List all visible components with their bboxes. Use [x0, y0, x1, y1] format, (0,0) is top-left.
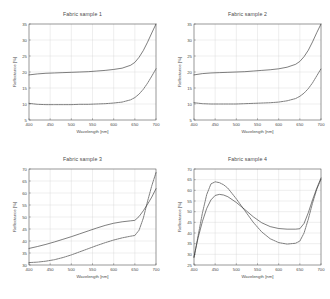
svg-text:25: 25: [187, 263, 192, 268]
svg-text:30: 30: [22, 263, 27, 268]
svg-text:45: 45: [22, 227, 27, 232]
svg-text:35: 35: [22, 22, 27, 27]
svg-text:30: 30: [187, 38, 192, 43]
svg-text:15: 15: [22, 86, 27, 91]
chart-canvas-4: 4004505005506006507002530354045505560657…: [165, 145, 330, 290]
svg-text:650: 650: [131, 122, 139, 127]
svg-text:50: 50: [187, 209, 192, 214]
y-axis-label-2: Reflectance [%]: [177, 57, 182, 87]
svg-text:40: 40: [22, 239, 27, 244]
svg-text:65: 65: [22, 179, 27, 184]
svg-text:25: 25: [187, 54, 192, 59]
svg-text:40: 40: [187, 231, 192, 236]
svg-text:25: 25: [22, 54, 27, 59]
svg-text:70: 70: [187, 167, 192, 172]
svg-text:500: 500: [233, 122, 241, 127]
svg-text:650: 650: [296, 122, 304, 127]
chart-canvas-2: 4004505005506006507005101520253035Wavele…: [165, 0, 330, 145]
svg-text:550: 550: [89, 122, 97, 127]
svg-text:450: 450: [47, 122, 55, 127]
svg-text:10: 10: [187, 102, 192, 107]
chart-panel-4: Fabric sample 44004505005506006507002530…: [165, 145, 330, 290]
chart-panel-1: Fabric sample 14004505005506006507005101…: [0, 0, 165, 145]
svg-text:700: 700: [153, 122, 161, 127]
svg-text:35: 35: [187, 241, 192, 246]
svg-text:15: 15: [187, 86, 192, 91]
svg-text:50: 50: [22, 215, 27, 220]
svg-text:20: 20: [22, 70, 27, 75]
chart-panel-3: Fabric sample 34004505005506006507003035…: [0, 145, 165, 290]
svg-text:600: 600: [275, 122, 283, 127]
svg-text:35: 35: [22, 251, 27, 256]
x-axis-label-1: Wavelength [nm]: [76, 129, 108, 134]
svg-text:55: 55: [22, 203, 27, 208]
svg-text:30: 30: [22, 38, 27, 43]
y-axis-label-3: Reflectance [%]: [12, 202, 17, 232]
svg-text:30: 30: [187, 252, 192, 257]
svg-text:10: 10: [22, 102, 27, 107]
y-axis-label-4: Reflectance [%]: [177, 202, 182, 232]
svg-text:45: 45: [187, 220, 192, 225]
svg-text:700: 700: [318, 122, 326, 127]
figure-legend: actual measured spectrum of the blend su…: [0, 270, 330, 299]
chart-canvas-1: 4004505005506006507005101520253035Wavele…: [0, 0, 165, 145]
svg-text:35: 35: [187, 22, 192, 27]
svg-text:450: 450: [212, 122, 220, 127]
x-axis-label-2: Wavelength [nm]: [241, 129, 273, 134]
svg-text:60: 60: [187, 188, 192, 193]
chart-panel-2: Fabric sample 24004505005506006507005101…: [165, 0, 330, 145]
svg-text:600: 600: [110, 122, 118, 127]
svg-text:65: 65: [187, 177, 192, 182]
svg-text:60: 60: [22, 191, 27, 196]
figure-panel-grid: Fabric sample 14004505005506006507005101…: [0, 0, 330, 299]
chart-canvas-3: 400450500550600650700303540455055606570W…: [0, 145, 165, 290]
y-axis-label-1: Reflectance [%]: [12, 57, 17, 87]
svg-text:55: 55: [187, 199, 192, 204]
svg-text:20: 20: [187, 70, 192, 75]
svg-text:500: 500: [68, 122, 76, 127]
svg-text:550: 550: [254, 122, 262, 127]
svg-text:70: 70: [22, 167, 27, 172]
